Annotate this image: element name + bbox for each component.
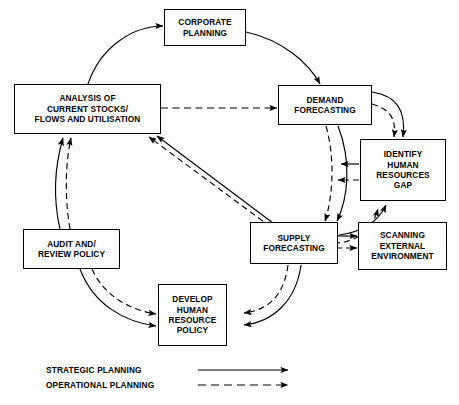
node-supply-forecasting[interactable]: SUPPLY FORECASTING (250, 222, 338, 264)
node-label: SCANNING EXTERNAL ENVIRONMENT (371, 230, 433, 261)
edge-supply-to-analysis-dashed (149, 137, 279, 233)
node-label: IDENTIFY HUMAN RESOURCES GAP (376, 149, 429, 191)
edge-supply-to-analysis-solid (157, 136, 281, 229)
legend: STRATEGIC PLANNING OPERATIONAL PLANNING (46, 362, 346, 392)
node-analysis-current-stocks[interactable]: ANALYSIS OF CURRENT STOCKS/ FLOWS AND UT… (14, 84, 161, 134)
edge-audit-to-analysis-solid (56, 138, 63, 229)
edge-analysis-to-corporate (88, 26, 163, 84)
edge-demand-to-gap-solid (372, 92, 404, 137)
node-identify-hr-gap[interactable]: IDENTIFY HUMAN RESOURCES GAP (360, 139, 446, 201)
node-label: DEMAND FORECASTING (294, 95, 355, 116)
node-develop-hr-policy[interactable]: DEVELOP HUMAN RESOURCE POLICY (158, 284, 227, 346)
node-label: DEVELOP HUMAN RESOURCE POLICY (169, 294, 217, 336)
node-corporate-planning[interactable]: CORPORATE PLANNING (164, 9, 246, 46)
legend-label-strategic: STRATEGIC PLANNING (46, 365, 196, 375)
legend-item-strategic-planning: STRATEGIC PLANNING (46, 362, 346, 377)
edge-corporate-to-demand (246, 32, 320, 84)
edge-demand-to-gap-dashed (372, 104, 394, 137)
edge-audit-to-develop-solid (80, 269, 156, 326)
node-label: AUDIT AND/ REVIEW POLICY (38, 239, 105, 260)
edge-audit-to-analysis-dashed (66, 138, 71, 229)
connector-layer (0, 0, 459, 405)
node-label: CORPORATE PLANNING (178, 17, 231, 38)
node-label: ANALYSIS OF CURRENT STOCKS/ FLOWS AND UT… (35, 93, 141, 124)
node-label: SUPPLY FORECASTING (263, 233, 324, 254)
hr-planning-diagram: CORPORATE PLANNING ANALYSIS OF CURRENT S… (0, 0, 459, 405)
edge-demand-to-supply-solid (337, 126, 347, 221)
edge-demand-to-supply-dashed (325, 126, 332, 221)
node-scanning-external-environment[interactable]: SCANNING EXTERNAL ENVIRONMENT (358, 222, 447, 270)
edge-audit-to-develop-dashed (92, 269, 156, 314)
legend-label-operational: OPERATIONAL PLANNING (46, 380, 196, 390)
node-audit-review-policy[interactable]: AUDIT AND/ REVIEW POLICY (23, 229, 120, 269)
node-demand-forecasting[interactable]: DEMAND FORECASTING (278, 85, 372, 125)
legend-item-operational-planning: OPERATIONAL PLANNING (46, 377, 346, 392)
legend-line-solid (196, 363, 306, 377)
edge-supply-to-develop-dashed (244, 265, 288, 313)
legend-line-dashed (196, 378, 306, 392)
edge-supply-to-develop-solid (244, 265, 301, 325)
